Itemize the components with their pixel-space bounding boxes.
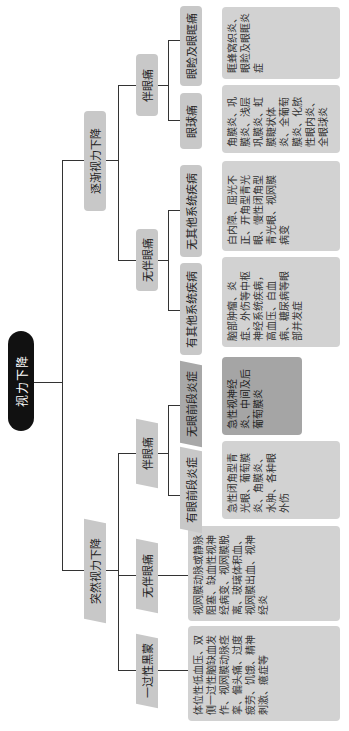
branch-gradual: 逐渐视力下降 [84, 111, 106, 211]
connector [118, 453, 136, 454]
connector [34, 382, 62, 383]
node-no-anterior-inflammation: 无眼前段炎症 [180, 361, 202, 448]
node-transient-amaurosis: 一过性黑蒙 [136, 634, 158, 709]
connector [118, 260, 136, 261]
node-no-systemic-disease: 无其他系统疾病 [180, 165, 202, 257]
node-eyelid-orbit-pain: 眼睑及眼眶痛 [180, 6, 202, 86]
detail-sudden-no-pain: 视网膜动脉或静脉阻塞、缺血性视神经病变、视网膜脱离、玻璃体积血、视网膜出血、视神… [188, 526, 340, 621]
flowchart-canvas: 视力下降 突然视力下降 逐渐视力下降 一过性黑蒙 无伴眼痛 伴眼痛 体位性低血压… [0, 0, 349, 731]
connector [168, 40, 180, 41]
node-sudden-no-pain: 无伴眼痛 [136, 539, 158, 614]
node-gradual-no-pain: 无伴眼痛 [136, 229, 158, 291]
connector [118, 575, 136, 576]
connector [118, 85, 136, 86]
connector [168, 406, 169, 496]
detail-no-systemic-disease: 白内障、屈光不正、开角型青光眼、慢性闭角型青光眼、视网膜病变 [222, 161, 340, 251]
label: 一过性黑蒙 [139, 644, 155, 699]
connector [118, 86, 119, 261]
label: 伴眼痛 [139, 69, 155, 102]
connector [168, 41, 169, 121]
root-label: 视力下降 [13, 355, 30, 407]
detail-systemic-disease: 脑部肿瘤、炎症、外伤等中枢神经系统疾病，高血压、白血病、糖尿病等眼部并发症 [222, 257, 340, 347]
connector [158, 453, 168, 454]
branch-sudden: 突然视力下降 [84, 519, 106, 624]
node-systemic-disease: 有其他系统疾病 [180, 263, 202, 355]
node-gradual-pain: 伴眼痛 [136, 54, 158, 116]
node-eyeball-pain: 眼球痛 [180, 93, 202, 149]
label: 无眼前段炎症 [183, 371, 199, 437]
branch-gradual-label: 逐渐视力下降 [87, 128, 103, 194]
connector [158, 670, 188, 671]
connector [158, 260, 168, 261]
connector [168, 210, 180, 211]
connector [118, 670, 136, 671]
connector [118, 453, 119, 671]
detail-transient-amaurosis: 体位性低血压、双侧一过性脑缺血发作、视网膜动脉痉挛、偏头痛、过度疲劳、饥饿、精神… [188, 626, 340, 721]
connector [62, 160, 84, 161]
connector [168, 211, 169, 311]
label: 无伴眼痛 [139, 238, 155, 282]
label: 无其他系统疾病 [183, 173, 199, 250]
detail-eyelid-orbit-pain: 眶蜂窝织炎、眼睑及眼眶炎症 [222, 7, 340, 79]
label: 无伴眼痛 [139, 554, 155, 598]
connector [106, 160, 118, 161]
label: 眼睑及眼眶痛 [183, 13, 199, 79]
label: 伴眼痛 [139, 437, 155, 470]
node-sudden-pain: 伴眼痛 [136, 419, 158, 489]
label: 有其他系统疾病 [183, 271, 199, 348]
branch-sudden-label: 突然视力下降 [87, 538, 103, 604]
detail-no-anterior-inflammation: 急性视神经炎、中间及后葡萄膜炎 [222, 357, 302, 435]
detail-eyeball-pain: 角膜炎、巩膜炎、浅层巩膜炎、虹膜睫状体炎、全葡萄膜炎、化脓性眼内炎、全眼球炎 [222, 85, 340, 153]
root-node: 视力下降 [8, 331, 34, 431]
connector [158, 575, 188, 576]
connector [158, 85, 168, 86]
connector [168, 310, 180, 311]
connector [62, 570, 84, 571]
connector [62, 161, 63, 571]
connector [168, 120, 180, 121]
label: 有眼前段炎症 [183, 457, 199, 523]
connector [168, 405, 180, 406]
label: 眼球痛 [183, 105, 199, 138]
node-anterior-inflammation: 有眼前段炎症 [180, 447, 202, 534]
detail-anterior-inflammation: 急性闭角型青光眼、葡萄膜炎、角膜炎、水肿、各种眼外伤 [222, 441, 340, 519]
connector [168, 495, 180, 496]
connector [106, 570, 118, 571]
